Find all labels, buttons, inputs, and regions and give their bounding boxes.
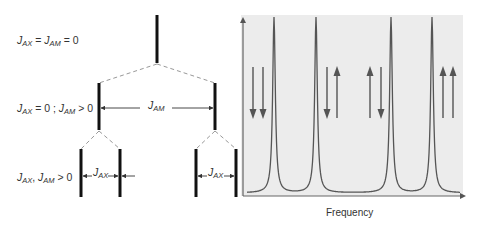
dash-l2-c: [196, 131, 215, 149]
jax-right-label: JAX: [208, 166, 223, 180]
subscript: AM: [43, 176, 54, 185]
subscript: AX: [22, 176, 32, 185]
relation: > 0: [55, 171, 73, 183]
x-axis-label: Frequency: [326, 207, 373, 218]
subscript: AM: [64, 107, 75, 116]
jam-label: JAM: [148, 99, 165, 113]
relation: =: [32, 34, 44, 46]
jax-left-label: JAX: [93, 166, 108, 180]
level1-condition: JAX = JAM = 0: [17, 34, 79, 48]
relation: > 0: [75, 102, 93, 114]
subscript: AX: [22, 107, 32, 116]
subscript: AM: [49, 39, 60, 48]
subscript: AX: [98, 171, 108, 180]
dash-l2-b: [99, 131, 120, 149]
dash-l1-right: [157, 64, 215, 83]
relation: = 0: [61, 34, 79, 46]
subscript: AM: [153, 104, 164, 113]
relation: = 0 ;: [32, 102, 59, 114]
dash-l2-a: [81, 131, 99, 149]
dash-l2-d: [215, 131, 236, 149]
subscript: AX: [22, 39, 32, 48]
dash-l1-left: [99, 64, 157, 83]
subscript: AX: [213, 171, 223, 180]
level2-condition: JAX = 0 ; JAM > 0: [17, 102, 93, 116]
level3-condition: JAX, JAM > 0: [17, 171, 72, 185]
